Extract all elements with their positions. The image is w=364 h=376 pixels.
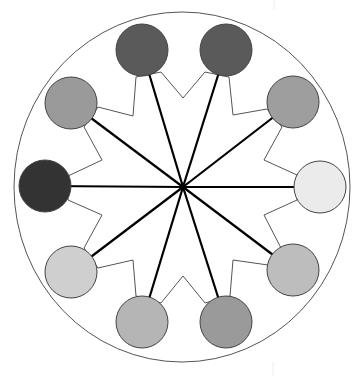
node-top-left [116,24,168,76]
node-top-right [200,24,252,76]
node-lower-right [267,244,319,296]
diagram-canvas [0,0,364,376]
node-upper-left [45,77,97,129]
node-bottom-right [200,296,252,348]
node-left [19,160,71,212]
node-bottom-left [116,296,168,348]
node-lower-left [45,246,97,298]
radial-network-diagram [0,0,364,376]
central-hub [182,186,185,189]
node-upper-right [267,76,319,128]
node-right [294,161,346,213]
